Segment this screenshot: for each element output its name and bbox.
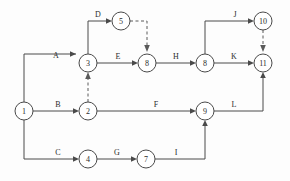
node-2[interactable]: 2 [79,102,97,120]
network-diagram-svg: 1 2 3 4 5 7 8 8 [0,0,290,181]
edge-label-K: K [231,52,237,61]
edge-B [33,108,79,114]
edge-L-path [214,75,263,111]
edge-E [97,60,138,66]
node-10[interactable]: 10 [254,12,272,30]
edge-F-arrowhead [190,108,196,114]
node-9-label: 9 [203,107,207,116]
edge-H-arrowhead [190,60,196,66]
edge-D-arrowhead [106,18,112,24]
edge-label-E: E [116,52,121,61]
node-3-label: 3 [86,59,90,68]
node-5[interactable]: 5 [112,12,130,30]
edge-D [88,18,112,54]
node-11-label: 11 [259,59,267,68]
node-8-right[interactable]: 8 [196,54,214,72]
node-9[interactable]: 9 [196,102,214,120]
edge-dummy-10-to-11-arrowhead [260,45,266,52]
edge-H [156,60,196,66]
edge-G-arrowhead [131,156,137,162]
node-10-label: 10 [259,17,267,26]
edge-E-arrowhead [132,60,138,66]
node-8-right-label: 8 [203,59,207,68]
edge-J-path [205,21,251,54]
edge-label-A: A [53,51,59,60]
node-1[interactable]: 1 [15,102,33,120]
node-3[interactable]: 3 [79,54,97,72]
node-4-label: 4 [86,155,90,164]
edge-dummy-10-to-11 [260,30,266,52]
node-1-label: 1 [22,107,26,116]
node-8-left[interactable]: 8 [138,54,156,72]
node-2-label: 2 [86,107,90,116]
edge-dummy-2-to-3-arrowhead [85,72,91,79]
edge-label-C: C [55,148,60,157]
edge-dummy-2-to-3 [85,72,91,102]
node-4[interactable]: 4 [79,150,97,168]
edge-I-path [155,123,205,159]
edge-I-arrowhead [202,120,208,126]
edge-label-F: F [154,100,159,109]
edge-B-arrowhead [73,108,79,114]
edge-label-D: D [95,10,101,19]
edge-K [214,60,254,66]
edge-C [24,120,79,162]
edge-K-arrowhead [248,60,254,66]
edge-label-G: G [114,148,120,157]
edge-F [97,108,196,114]
edge-L [214,72,266,111]
edge-label-J: J [233,10,236,19]
node-11[interactable]: 11 [254,54,272,72]
edge-L-arrowhead [260,72,266,78]
edge-J-arrowhead [248,18,254,24]
edge-label-L: L [232,100,237,109]
edge-dummy-5-to-8-arrowhead [144,45,150,52]
edge-A [24,51,76,102]
edge-G [97,156,137,162]
node-5-label: 5 [119,17,123,26]
edge-dummy-5-to-8-path [130,21,147,48]
edge-A-arrowhead [70,51,76,57]
edge-label-B: B [55,100,60,109]
edge-C-arrowhead [73,156,79,162]
edge-label-I: I [175,148,178,157]
node-7[interactable]: 7 [137,150,155,168]
edge-I [155,120,208,159]
edge-label-H: H [173,52,179,61]
edge-J [205,18,254,54]
node-7-label: 7 [144,155,148,164]
node-8-left-label: 8 [145,59,149,68]
edge-C-path [24,120,76,159]
edge-dummy-5-to-8 [130,21,150,52]
edge-D-path [88,21,109,54]
diagram-canvas: 1 2 3 4 5 7 8 8 [0,0,290,181]
edge-A-path [24,54,76,102]
